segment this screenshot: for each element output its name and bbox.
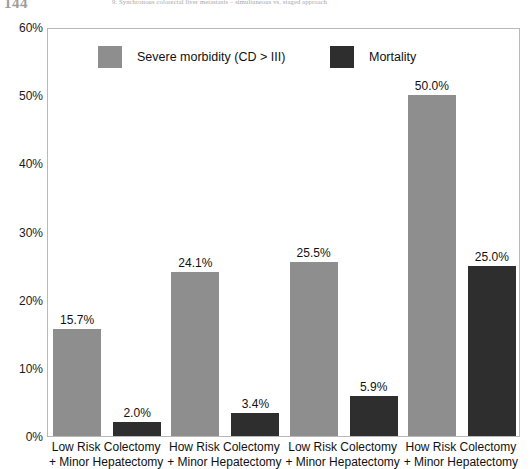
chart-legend: Severe morbidity (CD > III) Mortality <box>47 44 520 72</box>
legend-label-mortality: Mortality <box>369 50 416 64</box>
category-label: Low Risk Colectomy+ Minor Hepatectomy <box>285 440 399 469</box>
y-axis: 0%10%20%30%40%50%60% <box>0 28 43 437</box>
bar-value-label: 25.5% <box>297 246 331 260</box>
bar-value-label: 3.4% <box>242 397 269 411</box>
y-axis-tick-label: 50% <box>3 89 43 103</box>
bar-value-label: 50.0% <box>415 79 449 93</box>
y-axis-tick-label: 0% <box>3 430 43 444</box>
bar <box>290 262 338 436</box>
category-label-line: Low Risk Colectomy <box>285 440 399 455</box>
bar <box>231 413 279 436</box>
category-label-line: + Minor Hepatectomy <box>49 455 163 469</box>
legend-swatch-mortality <box>330 46 354 68</box>
y-axis-tick-label: 30% <box>3 226 43 240</box>
y-axis-tick-label: 60% <box>3 21 43 35</box>
plot-area: 15.7%2.0%24.1%3.4%25.5%5.9%50.0%25.0% <box>47 28 520 437</box>
bar-value-label: 5.9% <box>360 380 387 394</box>
category-label: Low Risk Colectomy+ Minor Hepatectomy <box>49 440 163 469</box>
category-label-line: + Minor Hepatectomy <box>167 455 281 469</box>
category-label: How Risk Colectomy+ Minor Hepatectomy <box>404 440 518 469</box>
bar-value-label: 15.7% <box>60 313 94 327</box>
category-label-line: How Risk Colectomy <box>404 440 518 455</box>
bar <box>53 329 101 436</box>
legend-swatch-severe-morbidity <box>98 46 122 68</box>
bar <box>113 422 161 436</box>
y-axis-tick-label: 20% <box>3 294 43 308</box>
bar-value-label: 25.0% <box>475 250 509 264</box>
category-label-line: + Minor Hepatectomy <box>404 455 518 469</box>
y-axis-tick-label: 10% <box>3 362 43 376</box>
bar <box>408 95 456 436</box>
bar <box>171 272 219 436</box>
category-label: How Risk Colectomy+ Minor Hepatectomy <box>167 440 281 469</box>
legend-label-severe-morbidity: Severe morbidity (CD > III) <box>137 50 285 64</box>
category-label-line: Low Risk Colectomy <box>49 440 163 455</box>
category-label-line: How Risk Colectomy <box>167 440 281 455</box>
category-label-line: + Minor Hepatectomy <box>285 455 399 469</box>
bar <box>468 266 516 436</box>
legend-item-mortality: Mortality <box>330 44 416 70</box>
bar-chart: 0%10%20%30%40%50%60% 15.7%2.0%24.1%3.4%2… <box>0 0 532 469</box>
category-axis-labels: Low Risk Colectomy+ Minor HepatectomyHow… <box>47 440 520 469</box>
bar-value-label: 24.1% <box>178 256 212 270</box>
bar <box>350 396 398 436</box>
legend-item-severe-morbidity: Severe morbidity (CD > III) <box>98 44 285 70</box>
y-axis-tick-label: 40% <box>3 157 43 171</box>
bar-value-label: 2.0% <box>123 406 150 420</box>
